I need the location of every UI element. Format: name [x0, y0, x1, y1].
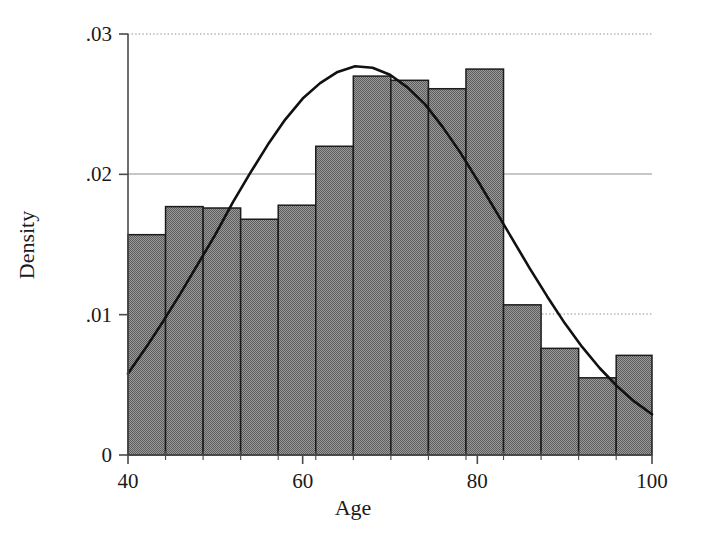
histogram-figure: 0.01.02.03 406080100 Age Density	[0, 0, 720, 539]
histogram-bar	[166, 207, 204, 455]
histogram-bar	[504, 305, 542, 455]
histogram-bar	[466, 69, 504, 455]
histogram-bar	[241, 219, 279, 455]
y-axis-tick-label: .01	[86, 303, 112, 327]
histogram-bar	[391, 80, 429, 455]
x-axis-tick-label: 60	[292, 469, 313, 493]
y-axis-tick-label: .02	[86, 162, 112, 186]
x-axis-tick-labels: 406080100	[118, 469, 668, 493]
y-axis-tick-label: 0	[102, 443, 113, 467]
y-axis-tick-label: .03	[86, 22, 112, 46]
x-axis-ticks	[128, 455, 652, 464]
x-axis-tick-label: 40	[118, 469, 139, 493]
y-axis-ticks	[119, 34, 128, 455]
histogram-bar	[353, 76, 391, 455]
histogram-bar	[316, 146, 354, 455]
histogram-bar	[579, 378, 617, 455]
histogram-bar	[616, 355, 652, 455]
x-axis-tick-label: 80	[467, 469, 488, 493]
x-axis-title: Age	[335, 495, 372, 520]
chart-svg: 0.01.02.03 406080100 Age Density	[0, 0, 720, 539]
histogram-bar	[278, 205, 316, 455]
histogram-bar	[428, 89, 466, 455]
y-axis-title: Density	[14, 211, 39, 279]
x-axis-tick-label: 100	[636, 469, 668, 493]
y-axis-tick-labels: 0.01.02.03	[86, 22, 112, 467]
histogram-bar	[541, 348, 579, 455]
